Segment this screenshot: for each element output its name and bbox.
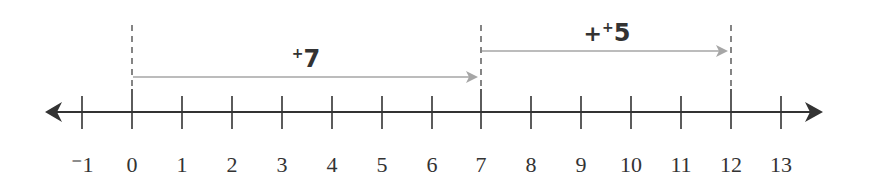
tick-label: 6 xyxy=(427,152,438,177)
number-line-svg: ⁻1012345678910111213+7++5 xyxy=(0,0,870,190)
tick-label: ⁻1 xyxy=(71,152,94,177)
tick-label: 9 xyxy=(576,152,587,177)
number-line-diagram: ⁻1012345678910111213+7++5 xyxy=(0,0,870,190)
tick-label: 1 xyxy=(177,152,188,177)
tick-label: 13 xyxy=(770,152,792,177)
tick-label: 5 xyxy=(377,152,388,177)
tick-label: 8 xyxy=(526,152,537,177)
jump-label: +7 xyxy=(292,45,320,73)
tick-label: 3 xyxy=(277,152,288,177)
tick-label: 12 xyxy=(720,152,742,177)
tick-label: 10 xyxy=(620,152,642,177)
tick-label: 11 xyxy=(670,152,691,177)
jump-label: ++5 xyxy=(584,19,631,47)
tick-label: 4 xyxy=(327,152,338,177)
tick-label: 0 xyxy=(127,152,138,177)
tick-label: 2 xyxy=(227,152,238,177)
tick-label: 7 xyxy=(476,152,487,177)
